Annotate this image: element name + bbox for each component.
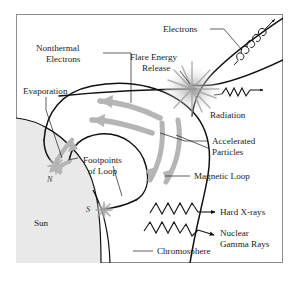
label-nonthermal-electrons-line2: Electrons <box>46 54 81 64</box>
label-footpoints-line2: of Loop <box>88 166 117 176</box>
leader-electrons <box>210 29 242 50</box>
label-nonthermal-electrons-line1: Nonthermal <box>36 43 80 53</box>
gamma-ray-zigzag-icon <box>144 222 214 236</box>
label-footpoints-line1: Footpoints <box>83 155 122 165</box>
label-flare-energy-line1: Flare Energy <box>130 52 178 62</box>
label-polarity-north: N <box>46 175 53 184</box>
label-polarity-south: S <box>86 205 90 214</box>
label-evaporation: Evaporation <box>23 86 68 96</box>
flare-starburst-icon <box>162 62 222 116</box>
label-flare-energy-line2: Release <box>142 63 170 73</box>
label-chromosphere: Chromosphere <box>157 246 211 256</box>
label-magnetic-loop: Magnetic Loop <box>194 171 250 181</box>
label-hard-xrays: Hard X-rays <box>220 207 266 217</box>
label-accelerated-line1: Accelerated <box>212 136 256 146</box>
plasma-flow-arrow-icon-top-2 <box>92 114 152 133</box>
label-nuclear-line2: Gamma Rays <box>220 239 270 249</box>
label-accelerated-line2: Particles <box>212 147 244 157</box>
label-electrons: Electrons <box>163 24 198 34</box>
label-nuclear-line1: Nuclear <box>220 228 249 238</box>
sun-body <box>16 118 101 263</box>
diagram-canvas: Electrons Nonthermal Electrons Flare Ene… <box>0 0 296 282</box>
plasma-flow-arrow-icon-right-2 <box>163 120 180 182</box>
leader-nonthermal-electrons <box>103 53 131 103</box>
leader-accelerated-particles <box>160 133 208 141</box>
plasma-flow-arrow-icon-top-1 <box>100 95 160 118</box>
solar-flare-figure: Electrons Nonthermal Electrons Flare Ene… <box>0 0 296 282</box>
hard-xray-zigzag-icon <box>150 203 215 214</box>
label-sun: Sun <box>34 218 49 228</box>
footpoint-spark-icon-south <box>95 201 113 219</box>
label-radiation: Radiation <box>210 110 246 120</box>
